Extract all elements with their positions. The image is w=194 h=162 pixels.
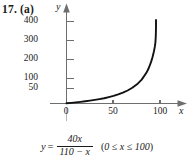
function-curve: [67, 20, 157, 103]
equation-domain: (0 ≤ x ≤ 100): [101, 141, 153, 152]
domain-close-paren: ): [150, 141, 153, 152]
equation-equals-sign: =: [48, 141, 54, 152]
x-axis-label: x: [179, 105, 183, 116]
graph-plot: 400 300 200 100 50 0 50 100 y x: [0, 0, 194, 130]
figure-panel: 17.(a): [0, 0, 194, 162]
x-tick-label-100: 100: [147, 106, 173, 116]
y-axis-label: y: [56, 1, 60, 12]
equation-numerator: 40x: [65, 134, 85, 145]
y-tick-label-400: 400: [8, 15, 38, 25]
equation-row: y = 40x 110 − x (0 ≤ x ≤ 100): [41, 134, 153, 158]
y-tick-label-50: 50: [8, 82, 38, 92]
equation-caption: y = 40x 110 − x (0 ≤ x ≤ 100): [0, 130, 194, 162]
y-axis-arrow: [63, 4, 70, 13]
x-tick-label-50: 50: [100, 106, 126, 116]
domain-text: 0 ≤ x ≤ 100: [104, 141, 149, 152]
y-tick-label-200: 200: [8, 53, 38, 63]
y-tick-label-300: 300: [8, 34, 38, 44]
equation-fraction: 40x 110 − x: [57, 134, 93, 158]
equation-denominator: 110 − x: [57, 147, 93, 158]
equation-lhs: y: [41, 141, 46, 152]
y-tick-label-100: 100: [8, 72, 38, 82]
x-tick-label-0: 0: [53, 106, 79, 116]
y-axis-ticks: [67, 22, 75, 89]
